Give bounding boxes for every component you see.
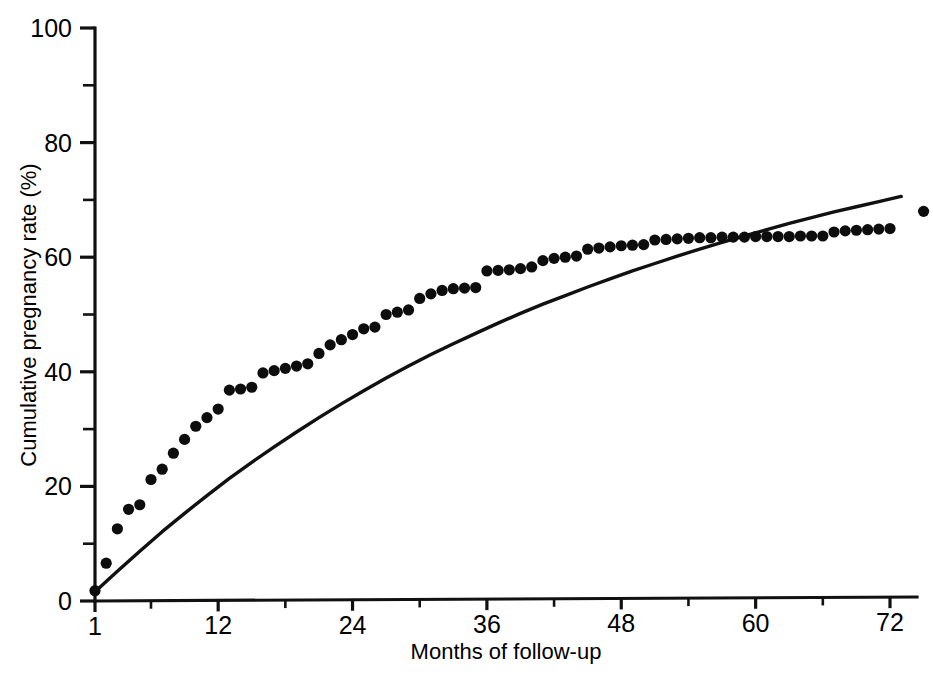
data-point <box>381 309 392 320</box>
data-point <box>571 250 582 261</box>
data-point <box>213 403 224 414</box>
x-axis-tick-labels: 1122436486072 <box>88 608 904 640</box>
data-point <box>123 504 134 515</box>
x-tick-label: 72 <box>876 608 904 636</box>
data-point <box>694 232 705 243</box>
y-axis-title: Cumulative pregnancy rate (%) <box>16 163 41 466</box>
data-point <box>392 307 403 318</box>
x-axis-line <box>95 597 917 601</box>
data-point <box>806 230 817 241</box>
data-point <box>660 234 671 245</box>
chart-figure: 020406080100 1122436486072 Cumulative pr… <box>0 0 933 678</box>
data-point <box>168 448 179 459</box>
data-point <box>325 339 336 350</box>
data-point <box>481 265 492 276</box>
data-point <box>840 225 851 236</box>
data-point <box>772 231 783 242</box>
data-point <box>280 363 291 374</box>
data-point <box>235 383 246 394</box>
data-point <box>828 226 839 237</box>
y-tick-label: 40 <box>44 358 72 386</box>
y-tick-label: 0 <box>58 587 72 615</box>
data-point <box>672 233 683 244</box>
data-point <box>358 323 369 334</box>
data-point <box>504 264 515 275</box>
data-point <box>515 263 526 274</box>
data-point <box>414 293 425 304</box>
data-point <box>795 230 806 241</box>
data-point <box>369 322 380 333</box>
x-tick-label: 12 <box>204 611 232 639</box>
data-point <box>862 224 873 235</box>
data-point <box>157 464 168 475</box>
data-point <box>784 231 795 242</box>
data-point <box>548 253 559 264</box>
data-point <box>101 558 112 569</box>
axis-lines <box>95 28 917 601</box>
data-point <box>425 288 436 299</box>
data-point <box>459 283 470 294</box>
data-point <box>470 282 481 293</box>
y-tick-label: 20 <box>44 472 72 500</box>
data-point <box>560 252 571 263</box>
data-point <box>593 242 604 253</box>
data-point <box>918 206 929 217</box>
data-point <box>313 348 324 359</box>
data-point <box>437 285 448 296</box>
data-point <box>817 230 828 241</box>
y-tick-label: 80 <box>44 129 72 157</box>
x-axis-title: Months of follow-up <box>411 639 602 664</box>
data-point <box>493 265 504 276</box>
data-point <box>269 365 280 376</box>
data-point <box>224 385 235 396</box>
y-tick-label: 100 <box>30 14 72 42</box>
data-point <box>537 255 548 266</box>
data-point <box>134 499 145 510</box>
data-point <box>750 231 761 242</box>
data-point <box>705 232 716 243</box>
data-point <box>89 585 100 596</box>
y-tick-label: 60 <box>44 243 72 271</box>
data-point <box>582 244 593 255</box>
data-point <box>347 329 358 340</box>
y-axis-ticks <box>80 28 95 601</box>
data-point <box>145 474 156 485</box>
data-point <box>246 382 257 393</box>
data-point <box>873 224 884 235</box>
data-point <box>761 231 772 242</box>
data-point <box>302 358 313 369</box>
x-tick-label: 1 <box>88 612 102 640</box>
data-point <box>638 239 649 250</box>
x-tick-label: 60 <box>742 609 770 637</box>
data-point <box>649 234 660 245</box>
data-point <box>448 283 459 294</box>
x-tick-label: 24 <box>339 611 367 639</box>
data-point <box>627 240 638 251</box>
observed-data-points <box>89 206 929 597</box>
data-point <box>616 240 627 251</box>
data-point <box>526 261 537 272</box>
data-point <box>403 304 414 315</box>
x-tick-label: 48 <box>607 609 635 637</box>
data-point <box>851 225 862 236</box>
cumulative-pregnancy-rate-scatter-plot: 020406080100 1122436486072 Cumulative pr… <box>0 0 933 678</box>
x-tick-label: 36 <box>473 610 501 638</box>
data-point <box>112 523 123 534</box>
fitted-model-curve <box>95 196 901 591</box>
data-point <box>201 412 212 423</box>
data-point <box>604 241 615 252</box>
data-point <box>257 367 268 378</box>
data-point <box>683 233 694 244</box>
data-point <box>291 360 302 371</box>
data-point <box>716 232 727 243</box>
data-point <box>190 421 201 432</box>
data-point <box>728 232 739 243</box>
data-point <box>739 232 750 243</box>
data-point <box>179 434 190 445</box>
data-point <box>336 334 347 345</box>
data-point <box>884 223 895 234</box>
